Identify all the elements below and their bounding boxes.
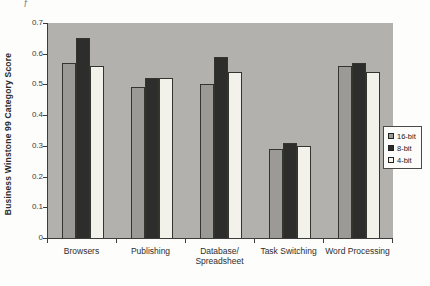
bar-16-bit bbox=[131, 87, 145, 238]
y-tick-label: 0.2 bbox=[17, 173, 43, 181]
bar-8-bit bbox=[214, 57, 228, 238]
legend-label: 4-bit bbox=[397, 156, 412, 165]
bar-8-bit bbox=[76, 38, 90, 238]
y-axis-title: Business Winstone 99 Category Score bbox=[1, 28, 15, 240]
bar-16-bit bbox=[269, 149, 283, 238]
plot-area bbox=[47, 23, 393, 239]
scan-artifact-mark: f bbox=[24, 0, 27, 9]
bar-4-bit bbox=[228, 72, 242, 238]
x-axis-label: Database/Spreadsheet bbox=[185, 246, 254, 266]
x-tick-mark bbox=[47, 239, 48, 243]
y-tick-label: 0.5 bbox=[17, 80, 43, 88]
bar-group bbox=[48, 23, 117, 238]
bar-group bbox=[255, 23, 324, 238]
bar-8-bit bbox=[352, 63, 366, 238]
bar-4-bit bbox=[297, 146, 311, 238]
bar-4-bit bbox=[366, 72, 380, 238]
bar-4-bit bbox=[90, 66, 104, 238]
x-axis-label: Word Processing bbox=[323, 246, 392, 256]
bar-4-bit bbox=[159, 78, 173, 238]
bar-group bbox=[186, 23, 255, 238]
y-tick-label: 0.7 bbox=[17, 19, 43, 27]
legend-item: 16-bit bbox=[388, 130, 419, 142]
bar-chart: f Business Winstone 99 Category Score 00… bbox=[0, 0, 430, 286]
y-tick-label: 0.4 bbox=[17, 111, 43, 119]
y-tick-label: 0.1 bbox=[17, 203, 43, 211]
legend-label: 16-bit bbox=[397, 132, 416, 141]
y-tick-label: 0 bbox=[17, 234, 43, 242]
bar-16-bit bbox=[62, 63, 76, 238]
legend-item: 8-bit bbox=[388, 142, 419, 154]
legend-item: 4-bit bbox=[388, 154, 419, 166]
legend-label: 8-bit bbox=[397, 144, 412, 153]
legend-swatch-icon bbox=[388, 133, 394, 139]
bar-8-bit bbox=[145, 78, 159, 238]
y-tick-label: 0.3 bbox=[17, 142, 43, 150]
x-tick-mark bbox=[392, 239, 393, 243]
x-tick-mark bbox=[323, 239, 324, 243]
x-axis-label: Publishing bbox=[116, 246, 185, 256]
y-axis-title-text: Business Winstone 99 Category Score bbox=[3, 53, 13, 215]
x-tick-mark bbox=[254, 239, 255, 243]
x-axis-label: Task Switching bbox=[254, 246, 323, 256]
y-tick-label: 0.6 bbox=[17, 50, 43, 58]
x-tick-mark bbox=[185, 239, 186, 243]
legend: 16-bit8-bit4-bit bbox=[383, 126, 422, 169]
bar-group bbox=[117, 23, 186, 238]
bar-16-bit bbox=[200, 84, 214, 238]
bar-16-bit bbox=[338, 66, 352, 238]
legend-swatch-icon bbox=[388, 157, 394, 163]
legend-swatch-icon bbox=[388, 145, 394, 151]
x-tick-mark bbox=[116, 239, 117, 243]
bar-8-bit bbox=[283, 143, 297, 238]
x-axis-label: Browsers bbox=[47, 246, 116, 256]
